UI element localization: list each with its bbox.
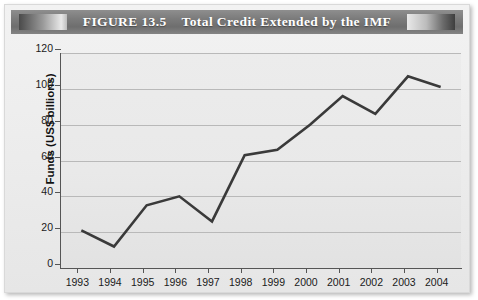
gridline xyxy=(61,53,461,54)
x-axis-tick-mark xyxy=(143,268,144,273)
x-axis-tick-mark xyxy=(273,268,274,273)
title-decoration-right-icon xyxy=(407,14,455,30)
y-axis-tick-mark xyxy=(55,228,61,229)
x-axis-tick-mark xyxy=(339,268,340,273)
y-axis-tick-mark xyxy=(55,264,61,265)
x-axis-tick-mark xyxy=(371,268,372,273)
x-axis-tick-mark xyxy=(437,268,438,273)
gridline xyxy=(61,196,461,197)
plot-area xyxy=(61,53,461,268)
x-axis-spine xyxy=(60,268,462,269)
x-axis-tick-mark xyxy=(110,268,111,273)
gridline xyxy=(61,232,461,233)
y-axis-tick-label: 0 xyxy=(19,257,53,269)
figure-container: FIGURE 13.5 Total Credit Extended by the… xyxy=(4,4,470,293)
x-axis-tick-mark xyxy=(404,268,405,273)
x-axis-tick-label: 2004 xyxy=(415,276,459,288)
x-axis-tick-mark xyxy=(77,268,78,273)
figure-title: FIGURE 13.5 Total Credit Extended by the… xyxy=(83,14,391,30)
x-axis-tick-mark xyxy=(208,268,209,273)
gridline xyxy=(61,125,461,126)
x-axis-tick-mark xyxy=(241,268,242,273)
y-axis-tick-label: 20 xyxy=(19,221,53,233)
title-decoration-left-icon xyxy=(19,14,67,30)
x-axis-tick-mark xyxy=(175,268,176,273)
gridline xyxy=(61,161,461,162)
gridline xyxy=(61,89,461,90)
x-axis-tick-mark xyxy=(306,268,307,273)
figure-title-bar: FIGURE 13.5 Total Credit Extended by the… xyxy=(11,10,463,34)
y-axis-title: Funds (US$ billions) xyxy=(44,44,56,214)
